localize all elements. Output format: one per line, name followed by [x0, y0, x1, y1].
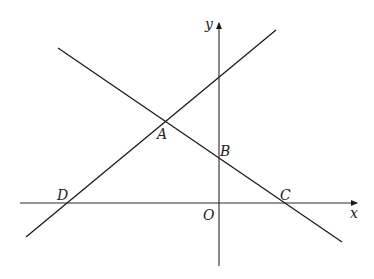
x-axis-label: x: [350, 205, 358, 221]
point-label-B: B: [219, 143, 230, 159]
line-DA: [26, 30, 276, 237]
origin-label: O: [203, 207, 215, 223]
line-AC: [58, 48, 342, 242]
y-axis-label: y: [204, 16, 214, 32]
point-label-A: A: [155, 126, 167, 142]
point-label-C: C: [280, 187, 291, 203]
coordinate-diagram: y x O A B C D: [0, 0, 374, 279]
point-label-D: D: [56, 187, 68, 203]
